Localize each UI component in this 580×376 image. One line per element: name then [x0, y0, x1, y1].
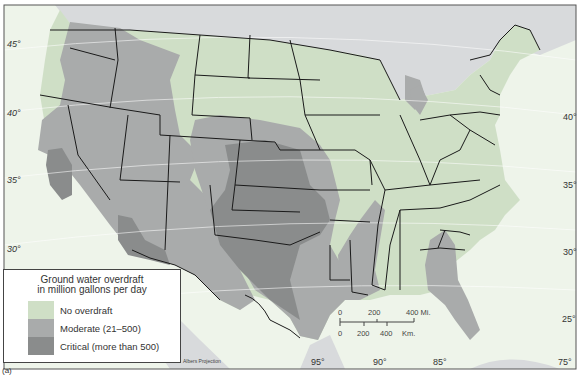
scale-km-200: 200 [357, 329, 370, 338]
figure-label: (a) [2, 366, 12, 375]
scale-km-0: 0 [338, 329, 342, 338]
legend-label-moderate: Moderate (21–500) [60, 323, 141, 334]
legend-item-critical: Critical (more than 500) [28, 337, 159, 355]
legend-label-critical: Critical (more than 500) [60, 341, 159, 352]
lat-label-40: 40° [7, 108, 21, 118]
legend-item-no-overdraft: No overdraft [28, 301, 112, 319]
legend: Ground water overdraft in million gallon… [3, 269, 181, 363]
projection-label: Albers Projection [183, 358, 221, 364]
lat-label-east-25: 25° [562, 314, 576, 324]
lon-label-95: 95° [311, 357, 325, 367]
lat-label-30: 30° [7, 244, 21, 254]
lon-label-90: 90° [373, 357, 387, 367]
lon-label-75: 75° [558, 357, 572, 367]
lat-label-east-30: 30° [563, 247, 577, 257]
lat-label-35: 35° [7, 175, 21, 185]
scale-mi-400: 400 Mi. [406, 308, 431, 317]
legend-title-line2: in million gallons per day [4, 285, 180, 295]
lat-label-45: 45° [7, 39, 21, 49]
lat-label-east-35: 35° [563, 180, 577, 190]
swatch-no-overdraft [28, 301, 54, 319]
lon-label-85: 85° [433, 357, 447, 367]
legend-title: Ground water overdraft in million gallon… [4, 275, 180, 295]
legend-item-moderate: Moderate (21–500) [28, 319, 141, 337]
scale-km-400: 400 [380, 329, 393, 338]
scale-km-unit: Km. [402, 329, 415, 338]
scale-mi-0: 0 [338, 308, 342, 317]
scale-mi-200: 200 [368, 308, 381, 317]
legend-label-no-overdraft: No overdraft [60, 305, 112, 316]
swatch-moderate [28, 319, 54, 337]
lat-label-east-40: 40° [563, 112, 577, 122]
swatch-critical [28, 337, 54, 355]
